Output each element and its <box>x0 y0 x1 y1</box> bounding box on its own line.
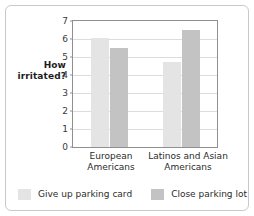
y-axis-tick-mark <box>70 21 73 22</box>
y-axis-tick-mark <box>70 39 73 40</box>
bar <box>182 30 200 147</box>
y-axis-tick-label: 1 <box>62 125 68 134</box>
bar <box>91 38 109 147</box>
chart-legend: Give up parking card Close parking lot <box>18 186 236 202</box>
y-axis-tick-label: 2 <box>62 107 68 116</box>
y-axis-tick-label: 6 <box>62 35 68 44</box>
bar <box>163 62 181 148</box>
y-axis-tick-mark <box>70 75 73 76</box>
bar-chart-figure: How irritated? 01234567 European America… <box>0 0 254 216</box>
y-axis-tick-label: 3 <box>62 89 68 98</box>
y-axis-tick-label: 0 <box>62 143 68 152</box>
legend-label: Give up parking card <box>38 189 132 199</box>
legend-item-give-up-parking-card: Give up parking card <box>18 189 132 200</box>
y-axis-tick-label: 4 <box>62 71 68 80</box>
plot-area: 01234567 <box>72 20 218 148</box>
y-axis-tick-label: 5 <box>62 53 68 62</box>
x-axis-category-label: European Americans <box>72 151 150 173</box>
legend-item-close-parking-lot: Close parking lot <box>151 189 247 200</box>
y-axis-tick-mark <box>70 93 73 94</box>
legend-label: Close parking lot <box>171 189 247 199</box>
bar <box>110 48 128 147</box>
legend-swatch-icon <box>18 189 31 200</box>
legend-swatch-icon <box>151 189 164 200</box>
y-axis-tick-mark <box>70 111 73 112</box>
x-axis-category-label: Latinos and Asian Americans <box>145 151 231 173</box>
y-axis-tick-mark <box>70 57 73 58</box>
y-axis-tick-mark <box>70 129 73 130</box>
y-axis-tick-mark <box>70 147 73 148</box>
y-axis-tick-label: 7 <box>62 17 68 26</box>
y-axis-title: How irritated? <box>8 60 66 82</box>
